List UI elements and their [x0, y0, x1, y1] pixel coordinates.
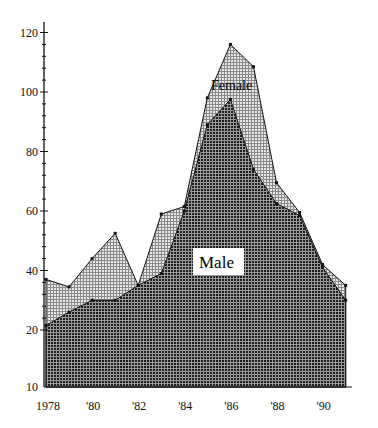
x-tick-label: 1978: [36, 399, 60, 413]
data-point-marker: [344, 299, 347, 302]
data-point-marker: [344, 284, 347, 287]
female-series-label: Female: [211, 78, 252, 93]
data-point-marker: [91, 299, 94, 302]
y-tick-label: 60: [26, 204, 38, 218]
x-tick-label: '86: [224, 399, 238, 413]
y-tick-label: 40: [26, 264, 38, 278]
data-point-marker: [298, 211, 301, 214]
data-point-marker: [298, 214, 301, 217]
x-tick-label: '82: [132, 399, 146, 413]
data-point-marker: [45, 324, 48, 327]
data-point-marker: [275, 181, 278, 184]
data-point-marker: [206, 123, 209, 126]
male-area: [45, 98, 348, 387]
male-series-label: Male: [199, 253, 234, 272]
data-point-marker: [275, 202, 278, 205]
stacked-area-chart: 1020406080100120 1978'80'82'84'86'88'90 …: [0, 0, 378, 428]
x-tick-label: '84: [178, 399, 192, 413]
data-point-marker: [160, 272, 163, 275]
data-point-marker: [114, 299, 117, 302]
x-tick-label: '80: [86, 399, 100, 413]
male-area-path: [46, 99, 346, 387]
data-point-marker: [183, 210, 186, 213]
data-point-marker: [137, 284, 140, 287]
y-tick-label: 120: [20, 26, 38, 40]
x-axis-labels: 1978'80'82'84'86'88'90: [36, 399, 331, 413]
data-point-marker: [68, 285, 71, 288]
data-point-marker: [229, 98, 232, 101]
data-point-marker: [321, 266, 324, 269]
data-point-marker: [68, 311, 71, 314]
y-tick-label: 100: [20, 85, 38, 99]
x-tick-label: '90: [317, 399, 331, 413]
y-tick-label: 20: [26, 323, 38, 337]
y-tick-label: 10: [26, 380, 38, 394]
data-point-marker: [229, 43, 232, 46]
data-point-marker: [91, 257, 94, 260]
data-point-marker: [160, 212, 163, 215]
x-tick-label: '88: [270, 399, 284, 413]
data-point-marker: [252, 65, 255, 68]
data-point-marker: [206, 96, 209, 99]
data-point-marker: [114, 232, 117, 235]
y-tick-label: 80: [26, 145, 38, 159]
data-point-marker: [45, 278, 48, 281]
data-point-marker: [252, 168, 255, 171]
